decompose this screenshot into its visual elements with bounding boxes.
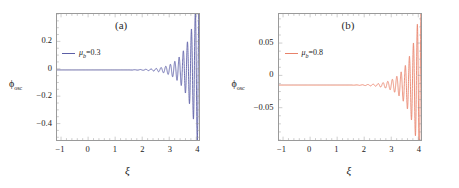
x-tick-label: −1: [272, 144, 292, 154]
x-axis-label-a: ξ: [125, 164, 130, 176]
legend-line-swatch-a: [62, 53, 75, 54]
y-axis-label-a: ϕosc: [9, 78, 22, 91]
legend-label-b: μb=0.8: [302, 48, 324, 59]
x-tick-label: 0: [299, 144, 319, 154]
x-tick-label: 2: [132, 144, 152, 154]
x-tick-label: 3: [160, 144, 180, 154]
legend-line-swatch-b: [285, 53, 298, 54]
y-tick-label: 0.2: [20, 35, 52, 45]
x-tick-label: 3: [381, 144, 401, 154]
panel-a: (a) μb=0.3 ϕosc ξ 0.20−0.2−0.4−101234: [0, 0, 230, 188]
x-tick-label: 1: [105, 144, 125, 154]
ticks-b: [279, 14, 421, 140]
panel-label-b: (b): [342, 19, 355, 31]
ticks-a: [57, 14, 199, 140]
y-axis-label-b: ϕosc: [232, 78, 245, 91]
plot-area-a: [56, 13, 200, 141]
figure-container: (a) μb=0.3 ϕosc ξ 0.20−0.2−0.4−101234 (b…: [0, 0, 459, 188]
x-tick-label: 1: [326, 144, 346, 154]
legend-b: μb=0.8: [285, 48, 324, 59]
x-tick-label: 2: [354, 144, 374, 154]
legend-value-a: 0.3: [91, 48, 101, 57]
y-tick-label: −0.2: [20, 90, 52, 100]
y-tick-label: −0.4: [20, 118, 52, 128]
x-tick-label: −1: [50, 144, 70, 154]
y-tick-label: 0: [20, 63, 52, 73]
legend-value-b: 0.8: [313, 48, 323, 57]
plot-area-b: [278, 13, 422, 141]
y-tick-label: 0: [242, 69, 274, 79]
x-tick-label: 0: [78, 144, 98, 154]
legend-label-a: μb=0.3: [79, 48, 101, 59]
y-tick-label: −0.05: [242, 102, 274, 112]
x-tick-label: 4: [187, 144, 207, 154]
legend-a: μb=0.3: [62, 48, 101, 59]
panel-label-a: (a): [115, 19, 127, 31]
panel-b: (b) μb=0.8 ϕosc ξ 0.050−0.05−101234: [230, 0, 459, 188]
y-tick-label: 0.05: [242, 37, 274, 47]
x-axis-label-b: ξ: [347, 164, 352, 176]
x-tick-label: 4: [409, 144, 429, 154]
